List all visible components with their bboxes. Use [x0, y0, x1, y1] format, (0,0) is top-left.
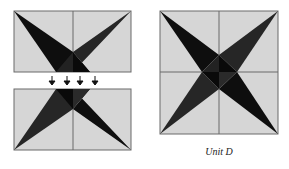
bottom-half-block [14, 89, 131, 150]
assembled-unit [160, 11, 278, 134]
arrows [49, 76, 98, 85]
arrow-down-icon [77, 76, 83, 85]
diagram-canvas [0, 0, 289, 169]
arrow-down-icon [49, 76, 55, 85]
top-half-block [14, 11, 131, 72]
arrow-down-icon [64, 76, 70, 85]
unit-caption: Unit D [196, 146, 242, 157]
arrow-down-icon [92, 76, 98, 85]
